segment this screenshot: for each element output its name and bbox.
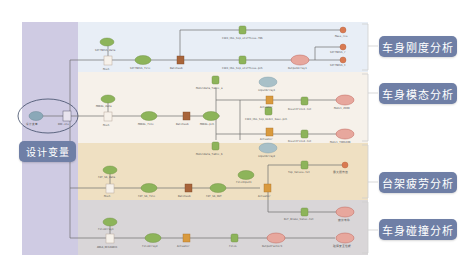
modal-act2-node — [266, 128, 273, 136]
svg-text:Model_TORSION: Model_TORSION — [330, 141, 351, 144]
modal-r1-node — [336, 95, 354, 105]
svg-text:碰撞安全性能: 碰撞安全性能 — [333, 244, 351, 248]
fat-data-node — [103, 166, 117, 174]
crash-r-node — [336, 233, 354, 243]
stiff-r2-node — [340, 44, 346, 50]
design-var-doe-box — [63, 111, 71, 121]
svg-text:C101_HSL_hip_model_base.pch: C101_HSL_hip_model_base.pch — [245, 118, 288, 121]
modal-r2-node — [336, 129, 354, 139]
crash-act-node — [183, 234, 190, 242]
modal-res2-file — [301, 130, 308, 138]
svg-text:MODAL_file: MODAL_file — [138, 123, 154, 126]
analysis-label-crash: 车身碰撞分析 — [379, 219, 457, 240]
modal-in2-node — [259, 143, 277, 153]
svg-text:DOE.xls: DOE.xls — [58, 123, 69, 126]
svg-text:SIFFNESS_r: SIFFNESS_r — [330, 51, 346, 54]
svg-text:FAT_SA_file: FAT_SA_file — [138, 195, 156, 198]
fat-act-node — [264, 184, 271, 192]
analysis-label-stiffness: 车身刚度分析 — [379, 36, 457, 57]
svg-text:FAT_SA_OUT: FAT_SA_OUT — [206, 195, 222, 198]
svg-text:疲劳寿命: 疲劳寿命 — [338, 218, 350, 222]
crash-out-node — [267, 233, 285, 243]
svg-text:ResultFile2.txt: ResultFile2.txt — [288, 140, 312, 143]
stiff-r3-node — [340, 57, 346, 63]
stiff-file-node — [135, 56, 151, 65]
fat-r2-node — [336, 207, 354, 217]
svg-text:Batchsub: Batchsub — [170, 67, 183, 70]
svg-text:OutputFactor1: OutputFactor1 — [262, 245, 283, 248]
svg-text:FileL: FileL — [229, 245, 237, 248]
fat-file-node — [141, 184, 157, 193]
modal-file-node — [141, 112, 157, 121]
stiff-batch-node — [177, 56, 184, 64]
svg-text:Mesh: Mesh — [103, 68, 110, 71]
svg-text:ResultFile1.txt: ResultFile1.txt — [288, 108, 312, 111]
svg-text:SIFFNESS_file: SIFFNESS_file — [130, 67, 151, 70]
design-var-node — [29, 112, 43, 121]
svg-text:FileArray2: FileArray2 — [142, 245, 158, 248]
stiff-r1-node — [340, 27, 346, 33]
fat-input-node — [238, 171, 254, 180]
svg-text:Actuator: Actuator — [260, 138, 273, 141]
svg-text:Mesh: Mesh — [103, 124, 110, 127]
modal-model-a-file — [212, 76, 219, 84]
svg-text:Actuator: Actuator — [177, 245, 190, 248]
svg-text:FAT_SA_data: FAT_SA_data — [98, 176, 116, 179]
svg-text:inputArray2: inputArray2 — [258, 155, 276, 158]
svg-text:FileInput1: FileInput1 — [236, 181, 252, 184]
svg-text:FileArray1: FileArray1 — [98, 228, 114, 231]
svg-text:C101_HSL_hip_stiffness.f06: C101_HSL_hip_stiffness.f06 — [222, 37, 263, 40]
svg-text:Mass_res: Mass_res — [335, 35, 348, 38]
svg-text:ANSA_DESIGNV1: ANSA_DESIGNV1 — [97, 246, 118, 249]
svg-text:SIFFNESS_t: SIFFNESS_t — [330, 64, 346, 67]
svg-text:C101_HSL_hip_stiffness.pch: C101_HSL_hip_stiffness.pch — [222, 67, 263, 70]
modal-in1-node — [259, 77, 277, 87]
modal-mesh-node — [104, 112, 112, 121]
stiff-res2-file — [239, 56, 246, 64]
svg-text:设计变量: 设计变量 — [26, 122, 38, 126]
analysis-label-modal: 车身模态分析 — [379, 83, 457, 104]
modal-act1-node — [266, 96, 273, 104]
svg-text:Actuator: Actuator — [260, 106, 273, 109]
stiff-data-node — [100, 38, 114, 46]
fat-mesh-node — [106, 184, 114, 193]
fat-r1-node — [342, 162, 348, 168]
modal-model-b-file — [212, 142, 219, 150]
crash-file-node — [145, 234, 161, 243]
svg-text:SIFFNESS_data: SIFFNESS_data — [95, 49, 116, 52]
svg-text:Modeldata_Table_b: Modeldata_Table_b — [196, 153, 223, 156]
fat-out-node — [210, 184, 226, 193]
svg-text:最大损伤值: 最大损伤值 — [333, 170, 348, 174]
svg-text:Modeldata_Table_a: Modeldata_Table_a — [196, 87, 223, 90]
workflow-diagram: SIFFNESS_data Mesh SIFFNESS_file Batchsu… — [0, 0, 475, 269]
analysis-label-fatigue: 台架疲劳分析 — [379, 172, 457, 193]
svg-text:Top_Values.txt: Top_Values.txt — [288, 171, 310, 174]
crash-mesh-node — [106, 234, 114, 243]
svg-text:Model_ZERO: Model_ZERO — [334, 107, 350, 110]
modal-batch-node — [183, 112, 190, 120]
svg-text:Def_Brake_Value.txt: Def_Brake_Value.txt — [284, 218, 314, 221]
svg-text:Batchsub: Batchsub — [178, 195, 191, 198]
crash-data-node — [103, 218, 117, 226]
crash-res-file — [231, 234, 238, 242]
svg-text:Mesh: Mesh — [104, 195, 111, 198]
svg-text:Actuator: Actuator — [258, 195, 271, 198]
svg-text:MODAL.pch: MODAL.pch — [200, 123, 214, 126]
svg-text:OutputArray1: OutputArray1 — [288, 67, 307, 70]
stiff-res1-file — [239, 26, 246, 34]
fat-res1-file — [301, 161, 308, 169]
modal-pch-node — [203, 112, 219, 121]
design-variable-label: 设计变量 — [19, 141, 76, 162]
svg-text:Batchsub: Batchsub — [176, 123, 189, 126]
stiff-mesh-node — [104, 56, 112, 65]
modal-data-node — [101, 95, 115, 103]
svg-text:inputArray1: inputArray1 — [258, 89, 276, 92]
fat-batch-node — [185, 184, 192, 192]
fat-res2-file — [301, 208, 308, 216]
stiff-out-node — [291, 55, 309, 65]
svg-text:MODAL_data: MODAL_data — [96, 105, 112, 108]
modal-res1-file — [301, 97, 308, 105]
